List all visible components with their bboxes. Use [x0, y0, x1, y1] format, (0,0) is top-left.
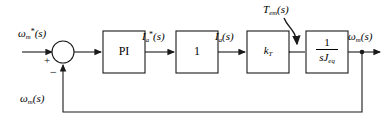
current-reference-label: Ia*(s) — [142, 31, 165, 44]
pi-block-label: PI — [103, 45, 145, 57]
torque-disturbance-label: Tem(s) — [263, 4, 289, 17]
feedback-speed-label: ωm(s) — [20, 93, 44, 106]
torque-constant-label: kT — [247, 45, 289, 58]
inertia-block-label: 1 sJeq — [306, 37, 348, 67]
error-summer — [52, 41, 74, 63]
input-reference-label: ωm*(s) — [18, 28, 46, 41]
output-speed-label: ωm(s) — [348, 31, 372, 44]
control-block-diagram: ωm*(s) + − PI Ia*(s) 1 Ia(s) kT Tem(s) 1… — [0, 0, 382, 126]
feedback-minus-sign: − — [50, 66, 57, 78]
current-feedback-label: Ia(s) — [215, 31, 234, 44]
unity-block-label: 1 — [176, 45, 218, 57]
